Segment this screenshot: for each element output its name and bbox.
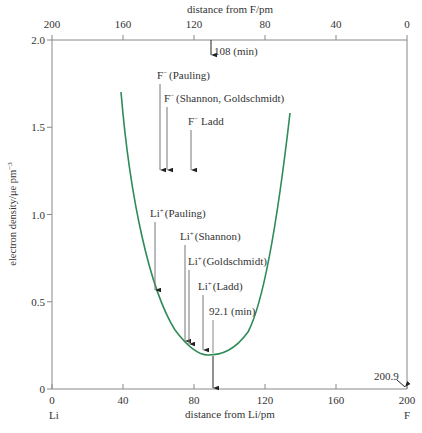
y-axis-title-sup: −3 — [6, 162, 14, 170]
f-shannon-marker: F−(Shannon, Goldschmidt) — [164, 92, 285, 170]
li-shannon-label: Li+(Shannon) — [180, 230, 241, 243]
top-axis-tick-labels: 20016012080400 — [44, 18, 411, 30]
x-tick-label: 0 — [49, 394, 55, 406]
y-tick-label: 1.0 — [31, 209, 45, 221]
f-ladd-marker: F−Ladd — [188, 115, 224, 170]
bond-length-label: 200.9 — [374, 370, 399, 382]
min-from-li-label: 92.1 (min) — [209, 305, 256, 318]
x-tick-label: 200 — [399, 394, 416, 406]
x2-tick-label: 200 — [44, 18, 61, 30]
x-tick-label: 120 — [257, 394, 274, 406]
x2-tick-label: 160 — [115, 18, 132, 30]
min-from-li-marker: 92.1 (min) — [209, 305, 256, 388]
li-end-label: Li — [49, 409, 59, 421]
chart-canvas: 20016012080400 distance from F/pm 040801… — [0, 0, 422, 433]
x-tick-label: 80 — [189, 394, 201, 406]
x2-tick-label: 0 — [404, 18, 410, 30]
bottom-axis-title: distance from Li/pm — [185, 408, 275, 420]
top-axis-ticks — [52, 35, 407, 40]
x2-tick-label: 80 — [260, 18, 272, 30]
y-tick-label: 0.5 — [31, 296, 45, 308]
f-end-label: F — [404, 409, 410, 421]
bond-length-arrow — [397, 380, 405, 387]
y-tick-label: 0 — [40, 383, 46, 395]
y-axis-tick-labels: 00.51.01.52.0 — [31, 34, 45, 395]
y-axis-ticks — [47, 40, 52, 389]
li-goldschmidt-marker: Li+(Goldschmidt) — [188, 255, 267, 344]
li-goldschmidt-label: Li+(Goldschmidt) — [188, 255, 267, 268]
bottom-axis-ticks — [52, 384, 407, 389]
li-ladd-label: Li+(Ladd) — [198, 280, 243, 293]
x-tick-label: 160 — [328, 394, 345, 406]
f-ladd-label: F−Ladd — [188, 115, 224, 127]
x2-tick-label: 40 — [331, 18, 343, 30]
x2-tick-label: 120 — [186, 18, 203, 30]
electron-density-curve — [121, 92, 290, 355]
y-tick-label: 1.5 — [31, 121, 45, 133]
top-axis-title: distance from F/pm — [187, 3, 274, 15]
x-tick-label: 40 — [118, 394, 130, 406]
y-tick-label: 2.0 — [31, 34, 45, 46]
f-shannon-label: F−(Shannon, Goldschmidt) — [164, 92, 285, 105]
min-from-f-label: 108 (min) — [214, 45, 258, 58]
y-axis-title-text: electron density/μe pm — [7, 170, 18, 266]
f-pauling-label: F−(Pauling) — [157, 69, 210, 82]
li-pauling-label: Li+(Pauling) — [150, 207, 206, 220]
bottom-axis-tick-labels: 04080120160200 — [49, 394, 416, 406]
y-axis-title: electron density/μe pm−3 — [6, 162, 18, 266]
li-pauling-marker: Li+(Pauling) — [150, 207, 206, 290]
